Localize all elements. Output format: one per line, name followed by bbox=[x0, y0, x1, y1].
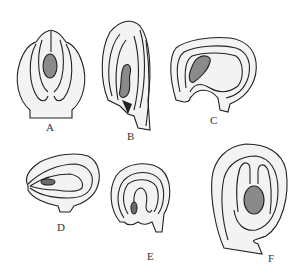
panel-a-ovule bbox=[17, 30, 85, 118]
panel-label-f: F bbox=[268, 252, 274, 264]
panel-c-ovule bbox=[171, 37, 257, 112]
panel-label-c: C bbox=[210, 114, 217, 126]
panel-label-b: B bbox=[127, 130, 134, 142]
ovule-diagram bbox=[0, 0, 302, 276]
panel-b-ovule bbox=[102, 21, 150, 130]
panel-label-d: D bbox=[57, 221, 65, 233]
panel-label-a: A bbox=[46, 121, 54, 133]
panel-f-ovule bbox=[212, 144, 287, 254]
panel-d-ovule bbox=[27, 154, 100, 212]
panel-e-ovule bbox=[111, 164, 170, 232]
panel-label-e: E bbox=[147, 250, 154, 262]
